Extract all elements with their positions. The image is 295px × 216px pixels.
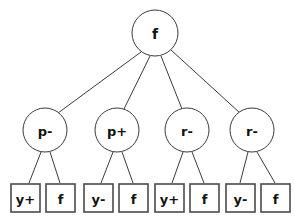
tree-node-leaf-5[interactable]: y+ — [155, 184, 184, 212]
tree-edge — [29, 152, 41, 183]
tree-node-leaf-1[interactable]: y+ — [11, 184, 40, 212]
tree-node-leaf-3[interactable]: y- — [84, 184, 113, 212]
node-label: f — [152, 26, 159, 42]
tree-diagram: p-p+r-r-fy+fy-fy+fy-f — [0, 0, 295, 216]
node-label: p+ — [107, 124, 127, 139]
tree-edge — [58, 52, 141, 113]
node-label: f — [273, 192, 279, 207]
node-label: p- — [38, 124, 53, 139]
tree-node-mid-2[interactable]: p+ — [95, 108, 139, 152]
tree-node-leaf-2[interactable]: f — [46, 184, 75, 212]
tree-node-leaf-6[interactable]: f — [190, 184, 219, 212]
tree-edge — [161, 56, 182, 109]
node-label: y+ — [16, 192, 35, 207]
tree-edge — [124, 56, 150, 109]
tree-node-root[interactable]: f — [132, 10, 178, 56]
tree-nodes-group: p-p+r-r-fy+fy-fy+fy-f — [11, 10, 290, 212]
tree-node-mid-4[interactable]: r- — [230, 108, 274, 152]
node-label: r- — [246, 124, 258, 139]
node-label: f — [58, 192, 64, 207]
node-label: f — [131, 192, 137, 207]
tree-diagram-canvas: p-p+r-r-fy+fy-fy+fy-f — [0, 0, 295, 216]
node-label: f — [202, 192, 208, 207]
node-label: y- — [234, 192, 248, 207]
tree-edge — [50, 152, 60, 183]
tree-node-leaf-7[interactable]: y- — [226, 184, 255, 212]
node-label: y- — [92, 192, 106, 207]
node-label: y+ — [160, 192, 179, 207]
tree-edge — [257, 152, 275, 183]
node-label: r- — [181, 124, 193, 139]
tree-edge — [240, 152, 248, 183]
tree-edge — [122, 152, 133, 183]
tree-edge — [101, 152, 113, 183]
tree-edge — [171, 50, 240, 113]
tree-node-mid-3[interactable]: r- — [165, 108, 209, 152]
tree-node-leaf-8[interactable]: f — [261, 184, 290, 212]
tree-node-mid-1[interactable]: p- — [23, 108, 67, 152]
tree-edge — [172, 152, 183, 183]
tree-node-leaf-4[interactable]: f — [119, 184, 148, 212]
tree-edge — [192, 152, 204, 183]
